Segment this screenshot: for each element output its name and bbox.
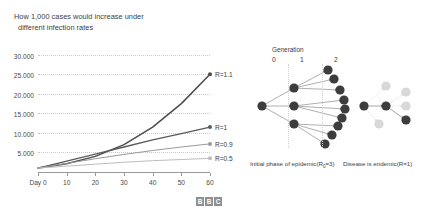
generation-number: 0 [272, 56, 276, 63]
generation-divider [322, 64, 323, 148]
transmission-edge [389, 108, 401, 117]
infection-node [401, 87, 410, 96]
transmission-edge [298, 88, 335, 90]
infection-node [333, 121, 342, 130]
chart-series-label-r11: R=1.1 [215, 71, 233, 78]
chart-y-tick-label: 30.000 [14, 52, 34, 59]
bbc-logo-letter: B [196, 197, 204, 206]
chart-y-tick-label: 25.000 [14, 72, 34, 79]
chart-x-tick-label: 60 [206, 179, 213, 186]
chart-x-tick [38, 173, 39, 176]
chart-x-tick-label: 50 [178, 179, 185, 186]
infection-node [289, 101, 298, 110]
infection-node [339, 95, 348, 104]
chart-title: How 1,000 cases would increase under dif… [14, 12, 214, 33]
chart-y-tick-label: 5.000 [17, 150, 34, 157]
chart-series-label-r1: R=1 [215, 124, 227, 131]
chart-y-tick-label: 15.000 [14, 111, 34, 118]
transmission-edge [367, 89, 382, 103]
chart-x-tick [210, 173, 211, 176]
chart-title-line-2: different infection rates [14, 23, 214, 34]
epidemic-caption-suffix: =3) [325, 160, 334, 167]
transmission-network-graphic [246, 0, 424, 216]
chart-y-tick-label: 20.000 [14, 91, 34, 98]
chart-series-label-r09: R=0.9 [215, 140, 233, 147]
chart-endpoint-marker [208, 125, 212, 129]
infection-node [381, 101, 390, 110]
infection-node [381, 81, 390, 90]
chart-y-tick-label: 10.000 [14, 130, 34, 137]
infection-node [401, 101, 410, 110]
chart-title-line-1: How 1,000 cases would increase under [14, 12, 144, 21]
infection-node [337, 113, 346, 122]
chart-x-tick-label: 20 [92, 179, 99, 186]
chart-line-r05 [38, 158, 210, 168]
endemic-diagram-caption: Disease is endemic(R=1) [343, 160, 412, 167]
chart-series-label-r05: R=0.5 [215, 155, 233, 162]
infection-node [329, 74, 338, 83]
chart-x-tick-label: 40 [149, 179, 156, 186]
chart-endpoint-marker [208, 142, 212, 146]
generation-number: 2 [334, 56, 338, 63]
chart-x-tick [153, 173, 154, 176]
generation-divider [288, 64, 289, 148]
infection-node [289, 83, 298, 92]
transmission-edge [298, 124, 333, 126]
chart-x-tick [124, 173, 125, 176]
chart-x-tick-label: 10 [63, 179, 70, 186]
transmission-edge [389, 95, 401, 104]
infection-node [374, 119, 383, 128]
chart-x-tick-label: 30 [120, 179, 127, 186]
transmission-diagram-panel: Generation Initial phase of epidemic(R0=… [246, 0, 424, 216]
chart-x-tick [181, 173, 182, 176]
epidemic-diagram-caption: Initial phase of epidemic(R0=3) [250, 160, 335, 169]
infection-node [335, 85, 344, 94]
infection-node [323, 65, 332, 74]
generation-number: 1 [300, 56, 304, 63]
chart-endpoint-marker [208, 72, 212, 76]
chart-x-tick [95, 173, 96, 176]
infographic-root: How 1,000 cases would increase under dif… [0, 0, 424, 216]
epidemic-caption-prefix: Initial phase of epidemic(R [250, 160, 323, 167]
infection-node [401, 115, 410, 124]
infection-node [289, 119, 298, 128]
line-chart-panel: How 1,000 cases would increase under dif… [0, 0, 246, 216]
infection-node [327, 130, 336, 139]
bbc-logo-letter: C [214, 197, 222, 206]
chart-x-tick [67, 173, 68, 176]
transmission-edge [265, 91, 289, 104]
transmission-edge [265, 108, 289, 121]
chart-x-axis: Day 0102030405060 [38, 172, 210, 173]
infection-node [359, 101, 368, 110]
transmission-edge [298, 101, 339, 106]
chart-series-lines [38, 47, 210, 172]
infection-node [257, 101, 266, 110]
bbc-logo-letter: B [205, 197, 213, 206]
chart-x-tick-label: Day 0 [29, 179, 46, 186]
transmission-edge [367, 109, 376, 120]
bbc-logo: BBC [196, 197, 222, 206]
chart-endpoint-marker [208, 156, 212, 160]
infection-node [340, 104, 349, 113]
